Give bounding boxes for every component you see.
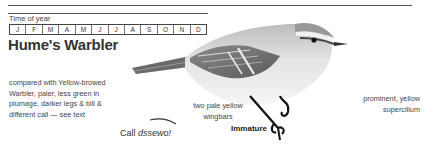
warbler-bird-illustration-icon (130, 16, 350, 164)
comparison-note: compared with Yellow-browed Warbler, pal… (9, 78, 129, 120)
species-title: Hume's Warbler (8, 36, 118, 53)
month-apr: A (58, 25, 74, 34)
month-jan: J (10, 25, 25, 34)
month-jul: J (108, 25, 124, 34)
age-caption: Immature (231, 124, 267, 133)
month-mar: M (42, 25, 58, 34)
call-sound: dssewo! (138, 128, 171, 138)
call-description: Call dssewo! (120, 128, 171, 138)
supercilium-note: prominent, yellow supercilium (340, 94, 420, 115)
month-may: M (75, 25, 91, 34)
call-prefix: Call (120, 128, 136, 138)
call-pointer-line-icon (148, 117, 178, 127)
time-of-year-label: Time of year (9, 14, 50, 23)
header-rule (8, 5, 412, 6)
month-jun: J (91, 25, 107, 34)
wingbars-note: two pale yellow wingbars (188, 101, 248, 122)
month-feb: F (25, 25, 41, 34)
